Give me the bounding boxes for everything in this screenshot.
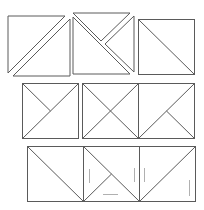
half-diagonal [84, 174, 112, 202]
diagonal [140, 147, 196, 202]
row-2 [23, 84, 195, 139]
row-3 [28, 147, 196, 202]
figure-3-3 [140, 147, 196, 202]
figure-1-3 [139, 20, 195, 75]
top-triangle [73, 13, 130, 41]
upper-left-triangle [8, 16, 65, 73]
lower-right-triangle [13, 19, 70, 76]
lower-left-triangle [73, 17, 130, 74]
half-diagonal [167, 111, 195, 139]
figure-3-1 [28, 147, 84, 202]
figure-1-2 [73, 13, 134, 74]
figure-2-1 [23, 84, 79, 139]
figure-2-2 [83, 84, 139, 139]
figure-1-1 [8, 16, 70, 76]
half-diagonal [23, 84, 51, 112]
diagonal [139, 20, 195, 75]
figure-2-3 [139, 84, 195, 139]
diagonal [28, 147, 84, 202]
puzzle-diagram [0, 0, 204, 210]
row-1 [8, 13, 195, 76]
figure-3-2 [84, 147, 140, 202]
